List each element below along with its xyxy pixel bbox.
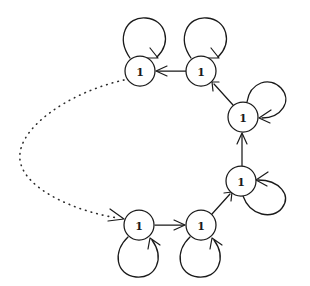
node-right-lower[interactable]: 1 xyxy=(226,166,256,196)
node-right-upper-label: 1 xyxy=(239,112,247,125)
node-top-left[interactable]: 1 xyxy=(125,56,155,86)
node-top-left-label: 1 xyxy=(136,66,144,79)
node-bottom-left-label: 1 xyxy=(135,220,143,233)
edge-right-upper-to-top-right xyxy=(212,82,233,105)
edge-bottom-right-to-right-lower xyxy=(212,192,232,214)
node-right-upper[interactable]: 1 xyxy=(228,102,258,132)
self-loop-top-right xyxy=(184,18,226,58)
self-loop-bottom-right xyxy=(180,237,222,277)
node-top-right-label: 1 xyxy=(197,66,205,79)
graph-canvas: 1 1 1 1 1 1 xyxy=(0,0,310,286)
edge-top-right-to-top-left xyxy=(156,66,186,76)
edge-top-left-to-bottom-left-dotted xyxy=(20,80,124,221)
node-bottom-right-label: 1 xyxy=(197,220,205,233)
node-right-lower-label: 1 xyxy=(237,176,245,189)
edge-bottom-left-to-bottom-right xyxy=(155,220,185,230)
self-loop-top-left xyxy=(123,18,165,58)
edge-right-lower-to-right-upper xyxy=(237,133,247,166)
self-loop-bottom-left xyxy=(118,237,160,277)
node-bottom-right[interactable]: 1 xyxy=(186,210,216,240)
node-bottom-left[interactable]: 1 xyxy=(124,210,154,240)
state-graph-figure: 1 1 1 1 1 1 xyxy=(0,0,310,286)
node-top-right[interactable]: 1 xyxy=(186,56,216,86)
